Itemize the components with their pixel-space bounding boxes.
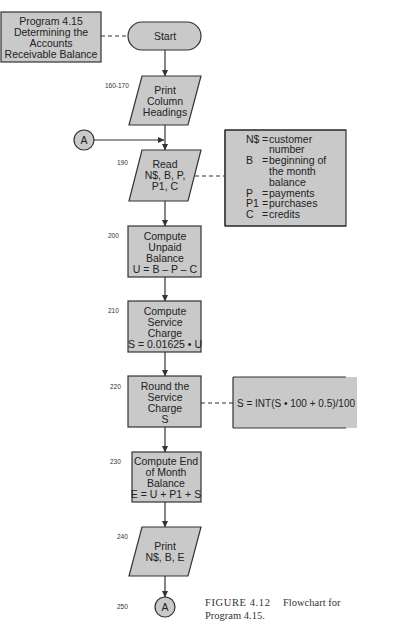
line-number: 240: [117, 533, 128, 540]
read-io: Read N$, B, P, P1, C: [129, 150, 201, 201]
var-equals: =: [262, 208, 268, 220]
var-equals: =: [262, 133, 268, 145]
caption-text: Program 4.15.: [205, 610, 265, 621]
print-result-io: Print N$, B, E: [129, 527, 201, 576]
print-headings-io: Print Column Headings: [129, 76, 201, 125]
node-text: E = U + P1 + S: [131, 488, 201, 500]
caption-text: Flowchart for: [283, 597, 341, 608]
connector-label: A: [161, 601, 168, 613]
compute-unpaid-process: Compute Unpaid Balance U = B – P – C: [128, 226, 201, 277]
line-number: 250: [117, 603, 128, 610]
connector-label: A: [80, 134, 87, 146]
compute-service-process: Compute Service Charge S = 0.01625 • U: [128, 301, 202, 352]
node-text: N$, B, E: [145, 551, 184, 563]
line-number: 160-170: [105, 82, 129, 89]
start-label: Start: [154, 30, 176, 42]
line-number: 210: [108, 307, 119, 314]
round-service-process: Round the Service Charge S: [128, 376, 201, 427]
rounding-annotation: S = INT(S • 100 + 0.5)/100: [233, 377, 357, 428]
line-number: 200: [108, 232, 119, 239]
figure-caption: FIGURE 4.12 Flowchart for Program 4.15.: [205, 597, 341, 621]
line-number: 220: [110, 383, 121, 390]
compute-end-process: Compute End of Month Balance E = U + P1 …: [131, 452, 201, 502]
node-text: S: [161, 413, 168, 425]
line-number: 190: [117, 159, 128, 166]
node-text: U = B – P – C: [133, 263, 198, 275]
var-symbol: C: [246, 208, 254, 220]
node-text: S = 0.01625 • U: [128, 338, 202, 350]
flowchart: Program 4.15 Determining the Accounts Re…: [0, 0, 393, 643]
title-line: Receivable Balance: [5, 48, 98, 60]
line-number: 230: [110, 458, 121, 465]
connector-a-entry: A: [74, 130, 94, 150]
node-text: P1, C: [152, 180, 179, 192]
connector-a-exit: A: [155, 597, 175, 617]
var-symbol: N$: [246, 133, 260, 145]
node-text: Headings: [143, 106, 187, 118]
title-annotation: Program 4.15 Determining the Accounts Re…: [1, 12, 101, 62]
start-terminal: Start: [128, 22, 201, 50]
variables-annotation: N$ = customer number B = beginning of th…: [225, 130, 346, 226]
var-equals: =: [262, 154, 268, 166]
figure-label: FIGURE 4.12: [205, 597, 271, 608]
rounding-formula: S = INT(S • 100 + 0.5)/100: [237, 398, 355, 409]
var-symbol: B: [246, 154, 253, 166]
var-meaning: credits: [269, 208, 300, 220]
